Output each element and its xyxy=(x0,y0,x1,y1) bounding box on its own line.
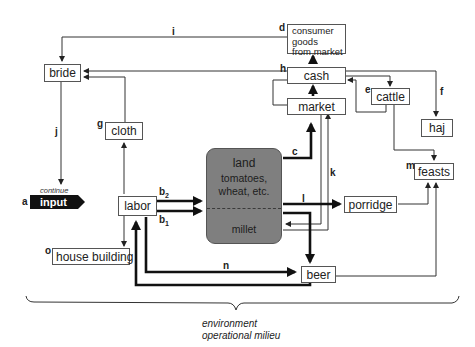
land-crop-2: wheat, etc. xyxy=(207,185,281,198)
environment-line2: operational milieu xyxy=(202,330,280,342)
node-porridge: porridge xyxy=(344,196,397,213)
edge-label-b2-sub: 2 xyxy=(165,192,169,199)
node-feasts: feasts xyxy=(414,163,454,180)
edge-label-e: e xyxy=(365,84,371,95)
edge-label-o: o xyxy=(45,245,51,256)
input-caption: continue xyxy=(40,186,68,195)
edge-label-d: d xyxy=(279,22,285,33)
node-cloth: cloth xyxy=(105,122,143,140)
edge-label-i: i xyxy=(172,26,175,37)
node-bride: bride xyxy=(44,64,81,82)
edge-label-f: f xyxy=(440,86,443,97)
land-title: land xyxy=(207,156,281,170)
node-labor: labor xyxy=(118,196,157,216)
consumer-goods-line3: from market xyxy=(292,47,341,58)
node-cattle: cattle xyxy=(371,88,410,105)
edge-label-m: m xyxy=(406,160,415,171)
land-millet: millet xyxy=(207,223,281,235)
node-haj: haj xyxy=(421,119,453,137)
edge-label-b1-sub: 1 xyxy=(165,220,169,227)
edge-label-c: c xyxy=(292,146,298,157)
edge-label-k: k xyxy=(330,167,336,178)
land-crop-1: tomatoes, xyxy=(207,172,281,185)
land-divider xyxy=(207,208,281,209)
node-land: land tomatoes, wheat, etc. millet xyxy=(206,148,282,244)
edge-label-h: h xyxy=(280,63,286,74)
node-cash: cash xyxy=(287,67,346,84)
edge-label-b1: b1 xyxy=(159,214,169,227)
node-beer: beer xyxy=(301,266,336,283)
environment-line1: environment xyxy=(202,318,280,330)
edge-label-g: g xyxy=(97,118,103,129)
edge-label-l: l xyxy=(302,193,305,204)
edge-label-j: j xyxy=(55,126,58,137)
node-input: input xyxy=(30,195,78,209)
consumer-goods-line1: consumer xyxy=(292,26,341,37)
node-house-building: house building xyxy=(52,248,130,265)
node-market: market xyxy=(287,98,346,115)
environment-brace xyxy=(26,296,459,310)
node-consumer-goods: consumer goods from market xyxy=(287,24,346,54)
edge-label-a: a xyxy=(22,196,28,207)
edge-label-b2: b2 xyxy=(159,186,169,199)
environment-label: environment operational milieu xyxy=(202,318,280,342)
input-arrow-icon xyxy=(78,195,85,209)
edge-label-n: n xyxy=(223,260,229,271)
